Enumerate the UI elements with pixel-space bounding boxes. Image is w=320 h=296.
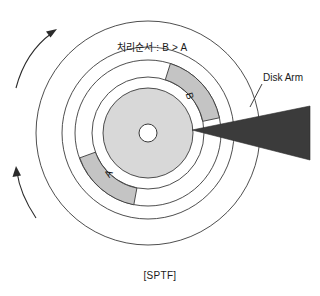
- rotation-arc-bottom: [17, 172, 36, 218]
- figure-caption: [SPTF]: [144, 270, 177, 281]
- disk-schematic-svg: B A 처리순서 : B > A Disk Arm [SPTF]: [0, 0, 320, 296]
- disk-arm-label: Disk Arm: [263, 72, 303, 83]
- rotation-arc-top: [16, 33, 52, 88]
- rotation-arrow-icon-bottom: [13, 166, 22, 177]
- processing-order-note: 처리순서 : B > A: [117, 42, 188, 53]
- sptf-disk-diagram: B A 처리순서 : B > A Disk Arm [SPTF]: [0, 0, 320, 296]
- spindle-hub: [139, 124, 157, 142]
